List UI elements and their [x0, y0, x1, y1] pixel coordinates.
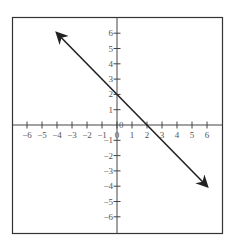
y-tick-label: 2 — [109, 89, 114, 99]
x-tick-label: 1 — [130, 130, 135, 140]
x-tick-label: −4 — [52, 130, 62, 140]
y-tick-label: −1 — [103, 135, 113, 145]
y-tick-label: 4 — [109, 59, 114, 69]
line-y-equals-neg-x-plus-2 — [57, 33, 207, 186]
x-tick-label: 4 — [175, 130, 180, 140]
y-tick-label: 0 — [119, 120, 124, 130]
y-tick-label: −3 — [103, 166, 113, 176]
x-tick-label: −5 — [37, 130, 47, 140]
x-tick-label: 0 — [115, 130, 120, 140]
x-tick-label: 2 — [145, 130, 150, 140]
x-tick-label: 5 — [190, 130, 195, 140]
y-tick-label: 6 — [109, 28, 114, 38]
y-tick-label: −2 — [103, 151, 113, 161]
y-tick-label: 3 — [109, 74, 114, 84]
x-tick-label: −2 — [82, 130, 92, 140]
x-tick-label: −3 — [67, 130, 77, 140]
y-tick-label: −5 — [103, 197, 113, 207]
y-tick-label: −4 — [103, 181, 113, 191]
coordinate-plane: −6−5−4−3−2−10123456−6−5−4−3−2−10123456 — [0, 0, 229, 241]
x-tick-label: 6 — [205, 130, 210, 140]
y-tick-label: 5 — [109, 44, 114, 54]
data-line — [57, 33, 207, 186]
x-tick-label: −6 — [22, 130, 32, 140]
y-tick-label: 1 — [109, 105, 114, 115]
y-tick-label: −6 — [103, 212, 113, 222]
